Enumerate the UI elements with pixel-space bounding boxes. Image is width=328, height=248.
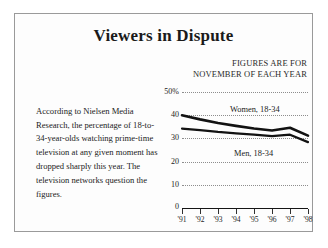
kicker-line-1: FIGURES ARE FOR: [147, 58, 307, 69]
infographic-frame: Viewers in Dispute FIGURES ARE FOR NOVEM…: [14, 13, 313, 232]
chart-kicker: FIGURES ARE FOR NOVEMBER OF EACH YEAR: [147, 58, 307, 80]
x-axis-tick-1: [200, 209, 201, 214]
x-axis-label-5: '96: [268, 215, 277, 224]
x-axis-tick-5: [272, 209, 273, 214]
series-label-men: Men, 18-34: [234, 149, 273, 158]
x-axis-label-6: '97: [286, 215, 295, 224]
x-axis-tick-6: [290, 209, 291, 214]
x-axis-label-0: '91: [178, 215, 187, 224]
x-axis-tick-7: [308, 209, 309, 214]
x-axis-tick-0: [182, 209, 183, 214]
x-axis-tick-2: [218, 209, 219, 214]
body-paragraph: According to Nielsen Media Research, the…: [36, 105, 158, 202]
y-axis-label-40: 40: [171, 111, 179, 120]
page-title: Viewers in Dispute: [15, 26, 312, 46]
series-line-men: [182, 129, 308, 142]
series-line-women: [182, 115, 308, 135]
x-axis-label-7: '98: [304, 215, 313, 224]
x-axis-label-1: '92: [196, 215, 205, 224]
x-axis-label-4: '95: [250, 215, 259, 224]
line-chart: 1020304050%0 Women, 18-34 Men, 18-34 '91…: [156, 83, 314, 235]
kicker-line-2: NOVEMBER OF EACH YEAR: [147, 69, 307, 80]
x-axis-tick-3: [236, 209, 237, 214]
y-axis-label-30: 30: [171, 134, 179, 143]
y-axis-label-20: 20: [171, 157, 179, 166]
x-axis-tick-4: [254, 209, 255, 214]
x-axis-label-3: '94: [232, 215, 241, 224]
chart-plot-area: 1020304050%0 Women, 18-34 Men, 18-34: [182, 92, 308, 208]
chart-x-axis: '91'92'93'94'95'96'97'98: [182, 208, 308, 209]
x-axis-label-2: '93: [214, 215, 223, 224]
y-axis-label-50: 50%: [164, 87, 179, 96]
y-axis-label-0: 0: [175, 202, 179, 211]
y-axis-label-10: 10: [171, 180, 179, 189]
series-label-women: Women, 18-34: [230, 105, 280, 114]
